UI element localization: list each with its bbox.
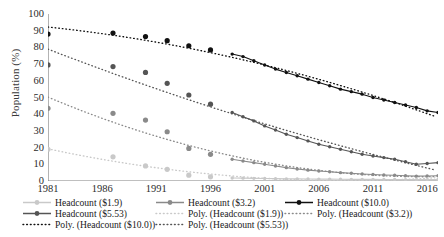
data-point [48,31,51,36]
data-point [143,117,148,122]
plot-area [48,14,438,181]
y-tick-label: 80 [20,42,44,52]
x-tick-label: 1991 [136,183,176,194]
x-tick-label: 2001 [245,183,285,194]
data-point [274,128,277,131]
data-point [360,92,363,95]
legend-item[interactable]: Poly. (Headcount ($10.0)) [22,218,155,229]
series-line [232,113,438,165]
plot-svg [48,14,438,181]
data-point [165,38,170,43]
data-point [295,74,298,77]
data-point [371,96,374,99]
y-tick-label: 30 [20,126,44,136]
data-point [186,146,191,151]
y-tick-label: 40 [20,109,44,119]
data-point [208,174,213,179]
data-point [436,161,438,164]
trendline-4 [48,149,435,181]
y-tick-label: 60 [20,76,44,86]
legend-swatch-icon [22,198,52,207]
legend-swatch-icon [284,198,314,207]
x-tick-label: 1981 [28,183,68,194]
data-point [360,153,363,156]
trendline-2 [48,49,435,170]
data-point [285,133,288,136]
legend-swatch-icon [22,209,52,218]
data-point [263,163,266,166]
data-point [186,173,191,178]
data-point [350,90,353,93]
legend-item[interactable]: Poly. (Headcount ($3.2)) [284,207,412,218]
data-point [306,77,309,80]
x-tick-label: 2011 [353,183,393,194]
data-point [317,143,320,146]
data-point [241,55,244,58]
series-2 [48,62,438,166]
data-point [208,102,213,107]
x-tick-label: 2016 [407,183,444,194]
data-point [317,81,320,84]
x-tick-label: 1986 [82,183,122,194]
y-tick-label: 50 [20,93,44,103]
y-axis-tick-labels: 1009080706050403020100 [19,0,44,190]
chart-legend: Headcount ($1.9)Headcount ($3.2)Headcoun… [22,196,442,234]
y-tick-label: 70 [20,59,44,69]
data-point [165,129,170,134]
data-point [328,145,331,148]
data-point [252,161,255,164]
legend-swatch-icon [22,220,52,229]
data-point [295,136,298,139]
data-point [339,87,342,90]
data-point [415,106,418,109]
legend-item[interactable]: Poly. (Headcount ($1.9)) [155,207,283,218]
data-point [230,52,233,55]
data-point [339,148,342,151]
legend-label: Poly. (Headcount ($3.2)) [317,208,412,219]
data-point [230,158,233,161]
legend-item[interactable]: Headcount ($1.9) [22,196,122,207]
data-point [230,176,233,179]
data-point [328,84,331,87]
y-tick-label: 20 [20,143,44,153]
data-point [110,154,115,159]
legend-swatch-icon [155,220,185,229]
legend-label: Poly. (Headcount ($5.53)) [188,219,288,230]
x-tick-label: 1996 [191,183,231,194]
data-point [285,71,288,74]
legend-item[interactable]: Headcount ($10.0) [284,196,389,207]
data-point [48,106,51,111]
data-point [110,64,115,69]
chart-figure: Population (%) 1009080706050403020100 19… [0,0,444,237]
legend-label: Poly. (Headcount ($10.0)) [55,219,155,230]
data-point [306,139,309,142]
legend-item[interactable]: Poly. (Headcount ($5.53)) [155,218,288,229]
data-point [208,152,213,157]
legend-swatch-icon [155,198,185,207]
series-1 [48,30,438,114]
data-point [350,150,353,153]
data-point [110,111,115,116]
data-point [143,70,148,75]
y-tick-label: 10 [20,159,44,169]
y-tick-label: 100 [20,9,44,19]
legend-swatch-icon [155,209,185,218]
y-tick-label: 90 [20,26,44,36]
x-tick-label: 2006 [299,183,339,194]
legend-item[interactable]: Headcount ($3.2) [155,196,255,207]
series-line [232,54,438,112]
data-point [425,109,428,112]
trendline-1 [48,27,435,116]
data-point [425,162,428,165]
data-point [143,34,148,39]
legend-item[interactable]: Headcount ($5.53) [22,207,127,218]
trendline-3 [48,97,435,177]
data-point [436,174,438,177]
data-point [186,92,191,97]
data-point [241,159,244,162]
data-point [48,62,51,67]
data-point [165,81,170,86]
data-point [436,111,438,114]
legend-swatch-icon [284,209,314,218]
